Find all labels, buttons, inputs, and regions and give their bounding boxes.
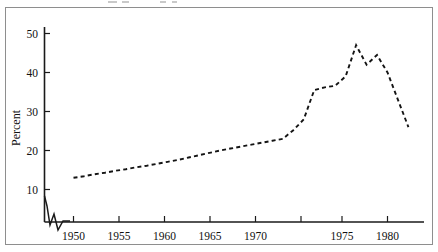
x-tick-label-1975: 1975 bbox=[331, 230, 354, 242]
y-tick-label-50: 50 bbox=[27, 28, 39, 40]
y-tick-label-30: 30 bbox=[27, 106, 39, 118]
x-axis-ticks bbox=[74, 216, 388, 222]
x-tick-label-1970: 1970 bbox=[244, 230, 267, 242]
x-tick-label-1950: 1950 bbox=[62, 230, 85, 242]
y-axis-ticks bbox=[45, 34, 51, 190]
x-tick-label-1965: 1965 bbox=[199, 230, 222, 242]
y-tick-label-10: 10 bbox=[27, 184, 39, 196]
y-tick-label-40: 40 bbox=[27, 67, 39, 79]
x-tick-label-1960: 1960 bbox=[153, 230, 176, 242]
x-tick-label-1980: 1980 bbox=[376, 230, 399, 242]
chart-plot-area: 50 40 30 20 10 1950 1955 1960 1965 1970 … bbox=[0, 0, 438, 252]
scan-artifact-zigzag bbox=[45, 196, 71, 230]
y-tick-label-20: 20 bbox=[27, 145, 39, 157]
x-tick-label-1955: 1955 bbox=[108, 230, 131, 242]
data-series-line bbox=[74, 45, 409, 178]
y-axis-title: Percent bbox=[9, 109, 23, 146]
line-chart-svg: 50 40 30 20 10 1950 1955 1960 1965 1970 … bbox=[0, 0, 438, 252]
